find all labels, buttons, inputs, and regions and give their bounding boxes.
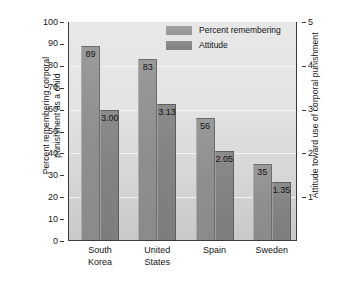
- y-tick-mark-right-1: [302, 197, 306, 198]
- bar-chart: Percent remembering corporal punishment …: [0, 0, 350, 285]
- bar-percent-3: 35: [253, 164, 272, 241]
- bar-percent-2: 56: [196, 118, 215, 241]
- y-tick-mark-right-5: [302, 22, 306, 23]
- y-tick-mark-right-4: [302, 66, 306, 67]
- y-tick-mark-left-90: [60, 44, 64, 45]
- bar-percent-1: 83: [138, 59, 157, 241]
- y-tick-mark-left-80: [60, 66, 64, 67]
- y-tick-mark-left-50: [60, 132, 64, 133]
- plot-area: 893.00833.13562.05351.35: [68, 22, 297, 241]
- y-tick-left-50: 50: [48, 127, 58, 136]
- y-tick-left-30: 30: [48, 171, 58, 180]
- y-tick-left-40: 40: [48, 149, 58, 158]
- y-tick-right-4: 4: [308, 61, 313, 70]
- percent-swatch: [166, 26, 192, 35]
- gridline-80: [68, 66, 297, 67]
- legend-item-1: Attitude: [166, 39, 281, 52]
- y-tick-left-80: 80: [48, 61, 58, 70]
- y-axis-left-ticks: 1009080706050403020100: [38, 22, 64, 241]
- attitude-swatch: [166, 41, 192, 50]
- y-tick-mark-left-70: [60, 88, 64, 89]
- y-tick-mark-left-30: [60, 175, 64, 176]
- y-tick-mark-right-2: [302, 153, 306, 154]
- y-tick-left-10: 10: [48, 215, 58, 224]
- y-tick-mark-left-10: [60, 219, 64, 220]
- y-tick-left-20: 20: [48, 193, 58, 202]
- y-tick-left-60: 60: [48, 105, 58, 114]
- bar-attitude-0: 3.00: [100, 110, 119, 241]
- y-tick-left-90: 90: [48, 39, 58, 48]
- category-label-2: Spain: [185, 245, 245, 257]
- category-label-0: South Korea: [70, 245, 130, 268]
- bar-attitude-3: 1.35: [272, 182, 291, 241]
- bar-value-attitude-3: 1.35: [273, 185, 290, 195]
- y-tick-mark-left-0: [60, 241, 64, 242]
- legend-label-0: Percent remembering: [199, 26, 281, 35]
- y-tick-right-5: 5: [308, 18, 313, 27]
- y-axis-right-ticks: 54321: [302, 22, 328, 241]
- y-tick-right-3: 3: [308, 105, 313, 114]
- bar-attitude-1: 3.13: [157, 104, 176, 241]
- category-label-3: Sweden: [242, 245, 302, 257]
- y-tick-mark-left-60: [60, 110, 64, 111]
- bar-value-attitude-1: 3.13: [158, 107, 175, 117]
- bar-value-attitude-2: 2.05: [216, 154, 233, 164]
- y-tick-right-1: 1: [308, 193, 313, 202]
- y-tick-mark-left-100: [60, 22, 64, 23]
- y-tick-right-2: 2: [308, 149, 313, 158]
- bar-value-percent-1: 83: [139, 62, 156, 72]
- y-tick-left-0: 0: [53, 237, 58, 246]
- x-axis-category-labels: South KoreaUnited StatesSpainSweden: [68, 245, 297, 279]
- bar-value-percent-3: 35: [254, 167, 271, 177]
- category-label-1: United States: [127, 245, 187, 268]
- bar-percent-0: 89: [81, 46, 100, 241]
- legend-label-1: Attitude: [199, 41, 228, 50]
- legend-item-0: Percent remembering: [166, 24, 281, 37]
- y-tick-left-100: 100: [43, 18, 58, 27]
- y-tick-mark-left-40: [60, 153, 64, 154]
- y-tick-left-70: 70: [48, 83, 58, 92]
- bar-value-attitude-0: 3.00: [101, 113, 118, 123]
- legend: Percent rememberingAttitude: [166, 24, 281, 54]
- y-tick-mark-right-3: [302, 110, 306, 111]
- y-tick-mark-left-20: [60, 197, 64, 198]
- bar-value-percent-2: 56: [197, 121, 214, 131]
- bar-value-percent-0: 89: [82, 49, 99, 59]
- bar-attitude-2: 2.05: [215, 151, 234, 241]
